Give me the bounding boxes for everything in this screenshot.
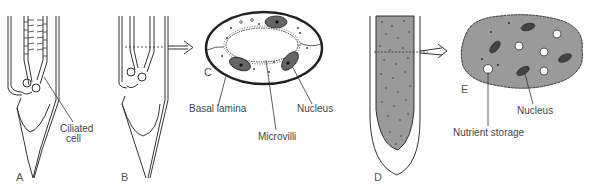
nucleus-c-label: Nucleus [297, 104, 333, 114]
panel-letter-a: A [16, 172, 23, 183]
diagram-figure [0, 0, 592, 186]
panel-letter-b: B [121, 172, 128, 183]
nutrient-storage-label: Nutrient storage [453, 128, 524, 138]
panel-a-drawing [8, 16, 73, 178]
panel-b-drawing [119, 16, 193, 178]
panel-letter-d: D [374, 172, 382, 183]
microvilli-label: Microvilli [258, 132, 296, 142]
panel-letter-c: C [204, 67, 212, 78]
nucleus-e-label: Nucleus [517, 106, 553, 116]
basal-lamina-label: Basal lamina [189, 104, 246, 114]
panel-d-drawing [370, 16, 447, 175]
panel-letter-e: E [461, 84, 468, 95]
ciliated-cell-label-line2: cell [60, 134, 93, 144]
ciliated-cell-label: Ciliated cell [60, 124, 93, 144]
